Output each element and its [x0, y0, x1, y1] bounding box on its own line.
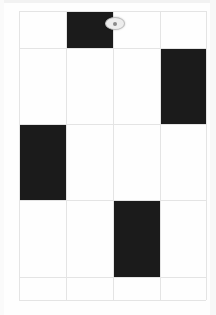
grid-cell-r2c1[interactable] — [19, 48, 66, 124]
grid-cell-r5c3[interactable] — [113, 277, 160, 300]
grid-cell-r5c2[interactable] — [66, 277, 113, 300]
grid-cell-r1c4[interactable] — [160, 11, 206, 48]
grid-cell-r1c1[interactable] — [19, 11, 66, 48]
grid-line-vertical-3 — [160, 11, 161, 300]
page-canvas — [0, 0, 216, 315]
grid-cell-r2c2[interactable] — [66, 48, 113, 124]
grid-cell-r2c4[interactable] — [160, 48, 206, 124]
grid-line-horizontal-2 — [19, 124, 206, 125]
grid-cell-r5c1[interactable] — [19, 277, 66, 300]
grid-line-vertical-2 — [113, 11, 114, 300]
cursor-oval[interactable] — [105, 17, 125, 30]
grid-line-horizontal-0 — [19, 11, 206, 12]
grid-cell-r1c2[interactable] — [66, 11, 113, 48]
grid-line-vertical-4 — [206, 11, 207, 300]
grid-cell-r4c2[interactable] — [66, 200, 113, 277]
grid-cell-r4c4[interactable] — [160, 200, 206, 277]
pattern-grid[interactable] — [19, 11, 206, 300]
grid-cell-r3c1[interactable] — [19, 124, 66, 200]
grid-line-vertical-1 — [66, 11, 67, 300]
grid-line-vertical-0 — [19, 11, 20, 300]
page-edge-left — [0, 0, 4, 315]
grid-line-horizontal-4 — [19, 277, 206, 278]
grid-cell-r3c4[interactable] — [160, 124, 206, 200]
grid-cell-r2c3[interactable] — [113, 48, 160, 124]
grid-cell-r1c3[interactable] — [113, 11, 160, 48]
grid-line-horizontal-5 — [19, 300, 206, 301]
grid-cell-r5c4[interactable] — [160, 277, 206, 300]
grid-cell-r3c2[interactable] — [66, 124, 113, 200]
grid-line-horizontal-1 — [19, 48, 206, 49]
grid-cell-r4c3[interactable] — [113, 200, 160, 277]
page-edge-top — [0, 0, 216, 3]
grid-line-horizontal-3 — [19, 200, 206, 201]
page-edge-right — [210, 0, 216, 315]
grid-cell-r4c1[interactable] — [19, 200, 66, 277]
grid-cell-r3c3[interactable] — [113, 124, 160, 200]
cursor-pupil — [113, 22, 117, 26]
